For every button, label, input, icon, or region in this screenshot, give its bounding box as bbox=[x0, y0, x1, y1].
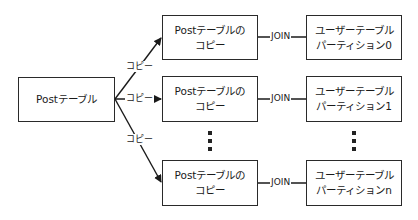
partition-label-line1: ユーザーテーブル bbox=[315, 168, 394, 183]
post-table-copy-1: Postテーブルの コピー bbox=[162, 76, 258, 122]
post-table-copy-n: Postテーブルの コピー bbox=[162, 160, 258, 206]
partition-label-line1: ユーザーテーブル bbox=[315, 84, 394, 99]
join-edge-label-n: JOIN bbox=[270, 177, 291, 188]
copy-label-line2: コピー bbox=[195, 38, 225, 53]
source-label: Postテーブル bbox=[36, 92, 97, 107]
source-post-table: Postテーブル bbox=[18, 77, 115, 122]
join-edge-label-0: JOIN bbox=[270, 31, 291, 42]
join-edge-label-1: JOIN bbox=[270, 93, 291, 104]
user-table-partition-n: ユーザーテーブル パーティションn bbox=[306, 160, 402, 206]
partition-label-line2: パーティション0 bbox=[316, 38, 392, 53]
copy-edge-label-0: コピー bbox=[125, 61, 154, 72]
post-table-copy-0: Postテーブルの コピー bbox=[162, 15, 258, 60]
user-table-partition-1: ユーザーテーブル パーティション1 bbox=[306, 76, 402, 122]
partition-label-line2: パーティションn bbox=[316, 183, 392, 198]
partition-label-line1: ユーザーテーブル bbox=[315, 23, 394, 38]
copy-label-line1: Postテーブルの bbox=[175, 84, 246, 99]
copy-edge-label-n: コピー bbox=[125, 134, 154, 145]
copy-edge-label-1: コピー bbox=[125, 93, 154, 104]
copy-label-line2: コピー bbox=[195, 99, 225, 114]
copy-label-line2: コピー bbox=[195, 183, 225, 198]
partition-label-line2: パーティション1 bbox=[316, 99, 392, 114]
copy-label-line1: Postテーブルの bbox=[175, 23, 246, 38]
user-table-partition-0: ユーザーテーブル パーティション0 bbox=[306, 15, 402, 60]
copy-label-line1: Postテーブルの bbox=[175, 168, 246, 183]
